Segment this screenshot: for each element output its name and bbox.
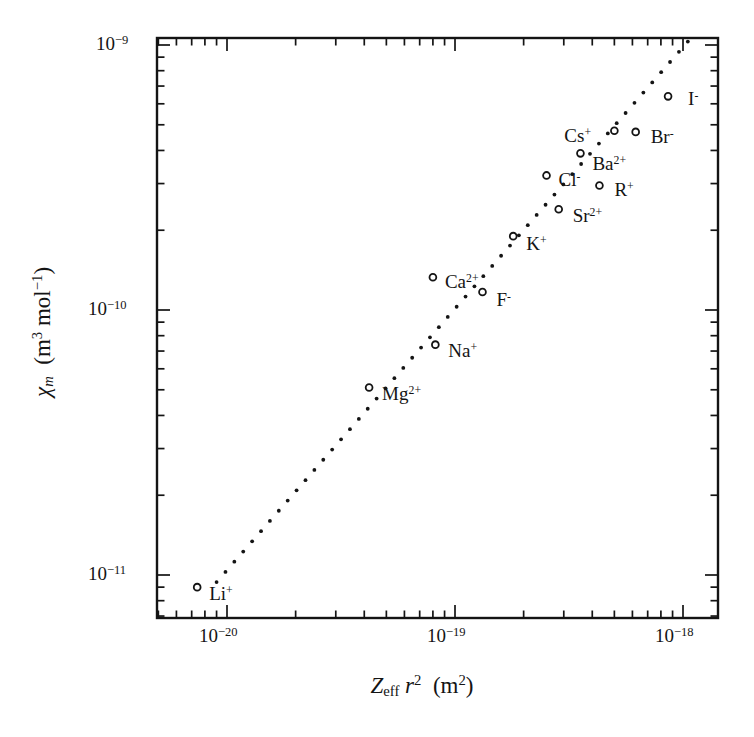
point-label-r: R+ xyxy=(614,179,633,201)
point-label-br: Br- xyxy=(651,126,674,148)
point-label-charge: 2+ xyxy=(409,384,422,397)
y-tick-label-1e-10: 10−10 xyxy=(88,298,127,320)
data-point xyxy=(432,341,439,348)
point-label-f: F- xyxy=(496,289,511,311)
point-label-base: Cs xyxy=(564,125,584,146)
point-label-charge: - xyxy=(670,126,674,139)
data-point xyxy=(479,289,486,296)
data-point xyxy=(632,128,639,135)
trendline-dotted xyxy=(215,40,690,584)
point-label-ca: Ca2+ xyxy=(445,271,479,293)
point-label-charge: - xyxy=(576,170,580,183)
point-label-li: Li+ xyxy=(209,583,233,605)
point-label-charge: + xyxy=(471,340,478,353)
point-label-sr: Sr2+ xyxy=(573,205,602,227)
x-tick-label-1e-19: 10−19 xyxy=(427,625,466,647)
data-point xyxy=(510,233,517,240)
point-label-base: Br xyxy=(651,126,670,147)
data-point xyxy=(665,93,672,100)
point-label-charge: + xyxy=(584,125,591,138)
x-tick-label-1e-18: 10−18 xyxy=(655,625,694,647)
point-label-cl: Cl- xyxy=(559,169,581,191)
point-label-base: Cl xyxy=(559,169,577,190)
point-label-charge: + xyxy=(627,180,634,193)
point-label-base: F xyxy=(496,289,507,310)
point-label-na: Na+ xyxy=(448,340,477,362)
point-label-base: Ba xyxy=(592,153,613,174)
point-label-base: Li xyxy=(209,583,226,604)
point-label-mg: Mg2+ xyxy=(382,383,421,405)
data-point xyxy=(366,384,373,391)
point-label-base: R xyxy=(614,179,627,200)
point-label-charge: 2+ xyxy=(614,154,627,167)
point-label-ba: Ba2+ xyxy=(592,153,626,175)
point-label-base: Mg xyxy=(382,383,408,404)
data-point xyxy=(543,172,550,179)
data-point xyxy=(611,127,618,134)
point-label-base: Ca xyxy=(445,271,466,292)
point-label-charge: - xyxy=(507,289,511,302)
x-axis-title: Zeff r2 (m2) xyxy=(262,672,582,700)
point-label-charge: - xyxy=(694,89,698,102)
point-label-base: Sr xyxy=(573,205,590,226)
point-label-base: K xyxy=(526,233,540,254)
data-point xyxy=(194,584,201,591)
x-tick-label-1e-20: 10−20 xyxy=(199,625,238,647)
point-label-charge: + xyxy=(540,234,547,247)
point-label-charge: 2+ xyxy=(466,272,479,285)
point-label-charge: 2+ xyxy=(590,206,603,219)
point-label-i: I- xyxy=(688,88,698,110)
data-point xyxy=(577,150,584,157)
y-tick-label-1e-11: 10−11 xyxy=(88,563,126,585)
point-label-charge: + xyxy=(226,584,233,597)
point-label-k: K+ xyxy=(526,233,546,255)
point-label-cs: Cs+ xyxy=(564,125,591,147)
plot-canvas xyxy=(0,0,754,737)
data-point xyxy=(430,274,437,281)
data-point xyxy=(596,182,603,189)
y-axis-title: χm (m3 mol−1) xyxy=(29,227,57,437)
figure-scatter-plot: 10−9 10−10 10−11 10−20 10−19 10−18 χm (m… xyxy=(0,0,754,737)
data-point xyxy=(555,206,562,213)
point-label-base: Na xyxy=(448,340,470,361)
y-tick-label-1e-9: 10−9 xyxy=(96,33,128,55)
